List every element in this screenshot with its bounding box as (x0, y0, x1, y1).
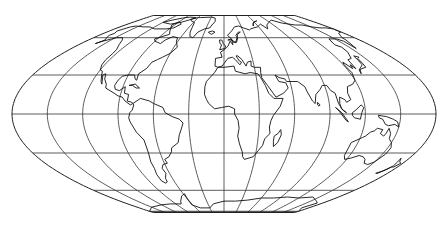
landmass-cuba (129, 84, 139, 88)
landmass-eurasia (215, 20, 356, 113)
landmass-new-zealand (376, 158, 402, 173)
landmass-sri-lanka (317, 102, 320, 106)
landmass-iceland (208, 31, 215, 34)
map-canvas (0, 0, 448, 227)
world-map: World map, flat-polar sinusoidal project… (0, 0, 448, 227)
graticule (12, 16, 436, 213)
landmass-madagascar (273, 130, 281, 147)
landmass-great-britain (220, 40, 226, 50)
landmass-south-america (129, 98, 183, 183)
landmass-australia (344, 128, 391, 164)
landmass-africa (205, 66, 284, 159)
landmass-borneo (352, 105, 363, 119)
landmass-new-guinea (378, 115, 399, 127)
landmass-north-america (95, 22, 181, 105)
landmass-japan (354, 56, 366, 74)
